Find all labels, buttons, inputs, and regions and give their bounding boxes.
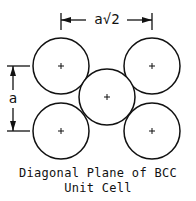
arrow-down-icon [10,121,16,131]
arrow-up-icon [10,66,16,76]
caption-line-1: Diagonal Plane of BCC [0,166,196,180]
arrow-right-icon [142,17,152,23]
caption-line-2: Unit Cell [0,181,196,195]
arrow-left-icon [61,17,71,23]
dim-horizontal-label: a√2 [88,11,126,27]
dim-vertical-label: a [7,90,19,106]
